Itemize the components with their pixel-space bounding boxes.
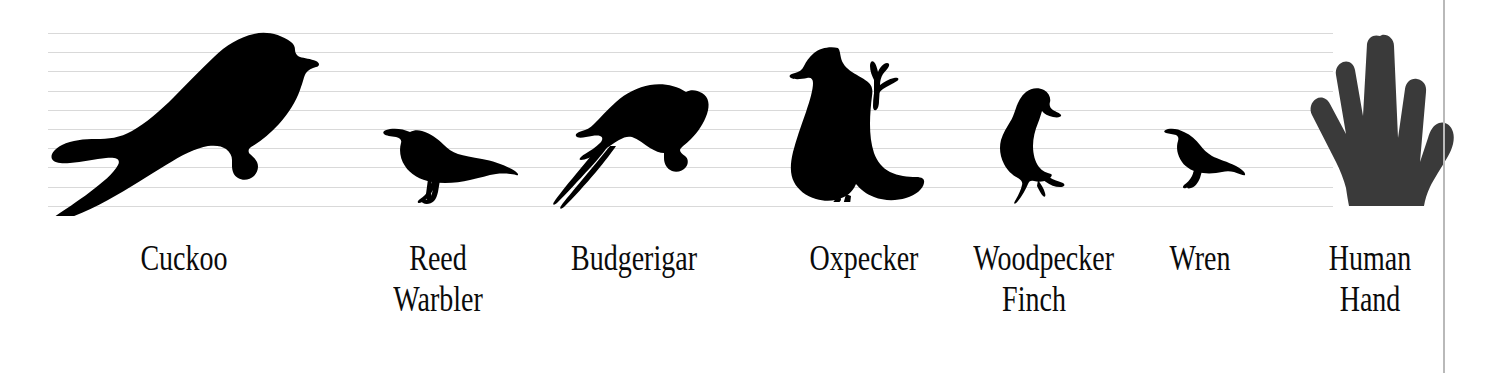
figure-item-woodpecker-finch: Woodpecker Finch bbox=[958, 0, 1110, 373]
figure-item-label: Oxpecker bbox=[795, 238, 933, 279]
figure-item-label: Budgerigar bbox=[565, 238, 703, 279]
figure-item-label: Human Hand bbox=[1306, 238, 1434, 321]
size-comparison-figure: Cuckoo Reed Warbler Budgerigar bbox=[0, 0, 1495, 373]
figure-item-label: Wren bbox=[1144, 238, 1256, 279]
figure-item-budgerigar: Budgerigar bbox=[548, 0, 720, 373]
figure-item-reed-warbler: Reed Warbler bbox=[352, 0, 524, 373]
figure-item-label: Reed Warbler bbox=[369, 238, 507, 321]
wren-silhouette-icon bbox=[1160, 120, 1246, 192]
figure-item-label: Cuckoo bbox=[72, 238, 296, 279]
figure-item-cuckoo: Cuckoo bbox=[44, 0, 324, 373]
cuckoo-silhouette-icon bbox=[48, 26, 320, 216]
figure-item-label: Woodpecker Finch bbox=[973, 238, 1095, 321]
right-vertical-rule bbox=[1443, 0, 1445, 373]
woodpecker-finch-silhouette-icon bbox=[998, 86, 1080, 204]
reed-warbler-silhouette-icon bbox=[374, 116, 518, 206]
oxpecker-silhouette-icon bbox=[784, 46, 946, 202]
human-hand-silhouette-icon bbox=[1302, 30, 1460, 210]
budgerigar-silhouette-icon bbox=[552, 82, 712, 212]
figure-item-human-hand: Human Hand bbox=[1290, 0, 1450, 373]
figure-item-oxpecker: Oxpecker bbox=[778, 0, 950, 373]
figure-item-wren: Wren bbox=[1130, 0, 1270, 373]
